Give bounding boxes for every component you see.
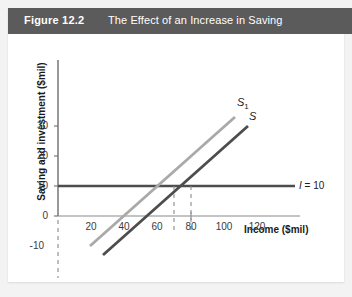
curve-label-s1: S1 (237, 96, 249, 111)
y-tick-label-minus-10: -10 (18, 240, 44, 251)
x-tick-label-80: 80 (178, 221, 204, 232)
x-tick-label-120: 120 (244, 221, 270, 232)
y-tick-label-20: 20 (22, 150, 48, 161)
plot-svg (8, 34, 344, 282)
x-tick-label-100: 100 (211, 221, 237, 232)
x-tick-label-20: 20 (78, 221, 104, 232)
figure-page: Figure 12.2 The Effect of an Increase in… (0, 0, 352, 297)
y-tick-label-0: 0 (22, 210, 48, 221)
figure-header: Figure 12.2 The Effect of an Increase in… (8, 8, 352, 34)
y-tick-label-30: 30 (22, 120, 48, 131)
figure-number: Figure 12.2 (24, 14, 84, 26)
saving-curve-s (103, 126, 248, 255)
y-tick-label-10: 10 (22, 180, 48, 191)
x-tick-label-40: 40 (111, 221, 137, 232)
chart-area: Saving and investment ($mil) Income ($mi… (8, 34, 344, 282)
investment-value: = 10 (302, 180, 325, 191)
curve-label-s: S (249, 110, 256, 122)
figure-title: The Effect of an Increase in Saving (108, 14, 283, 26)
investment-line-label: I = 10 (299, 180, 324, 191)
x-tick-label-60: 60 (144, 221, 170, 232)
